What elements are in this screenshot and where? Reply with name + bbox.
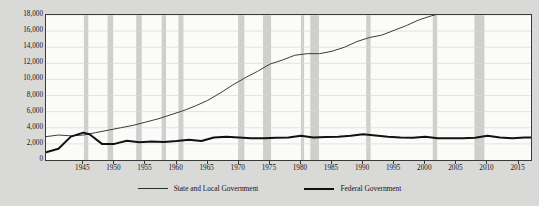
x-tick-mark xyxy=(424,160,425,164)
figure-container: Thousands, Thousands of Persons 02,0004,… xyxy=(0,0,539,206)
legend-line-swatch-icon xyxy=(304,188,334,190)
x-tick-label: 1990 xyxy=(355,164,369,172)
legend-item-state-and-local-government[interactable]: State and Local Government xyxy=(138,184,259,193)
legend-item-federal-government[interactable]: Federal Government xyxy=(304,184,401,193)
x-tick-label: 2010 xyxy=(479,164,493,172)
x-tick-mark xyxy=(455,160,456,164)
x-tick-mark xyxy=(486,160,487,164)
x-tick-label: 1945 xyxy=(75,164,89,172)
legend-line-swatch-icon xyxy=(138,188,168,189)
x-tick-mark xyxy=(518,160,519,164)
x-tick-label: 1950 xyxy=(106,164,120,172)
x-tick-label: 2005 xyxy=(448,164,462,172)
x-tick-mark xyxy=(113,160,114,164)
x-tick-label: 1985 xyxy=(324,164,338,172)
chart-legend: State and Local Government Federal Gover… xyxy=(0,184,539,193)
x-tick-label: 1965 xyxy=(199,164,213,172)
x-tick-label: 1975 xyxy=(262,164,276,172)
x-tick-mark xyxy=(269,160,270,164)
x-tick-label: 1970 xyxy=(231,164,245,172)
x-tick-mark xyxy=(207,160,208,164)
x-tick-label: 2015 xyxy=(510,164,524,172)
x-tick-mark xyxy=(331,160,332,164)
x-tick-label: 1980 xyxy=(293,164,307,172)
x-tick-label: 1955 xyxy=(137,164,151,172)
x-tick-label: 1960 xyxy=(168,164,182,172)
x-tick-mark xyxy=(238,160,239,164)
x-tick-mark xyxy=(176,160,177,164)
x-tick-mark xyxy=(393,160,394,164)
x-axis-tick-labels: 1945195019551960196519701975198019851990… xyxy=(0,0,539,206)
x-tick-mark xyxy=(362,160,363,164)
x-tick-mark xyxy=(82,160,83,164)
x-tick-label: 1995 xyxy=(386,164,400,172)
x-tick-label: 2000 xyxy=(417,164,431,172)
x-tick-mark xyxy=(300,160,301,164)
x-tick-mark xyxy=(144,160,145,164)
legend-label: Federal Government xyxy=(340,184,401,193)
legend-label: State and Local Government xyxy=(174,184,259,193)
